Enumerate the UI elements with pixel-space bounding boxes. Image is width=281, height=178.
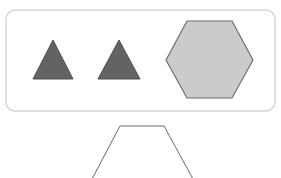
diagram-stage: Geometric shapes figure A rounded rectan… [0, 0, 281, 178]
shapes-canvas: Geometric shapes figure A rounded rectan… [0, 0, 281, 178]
